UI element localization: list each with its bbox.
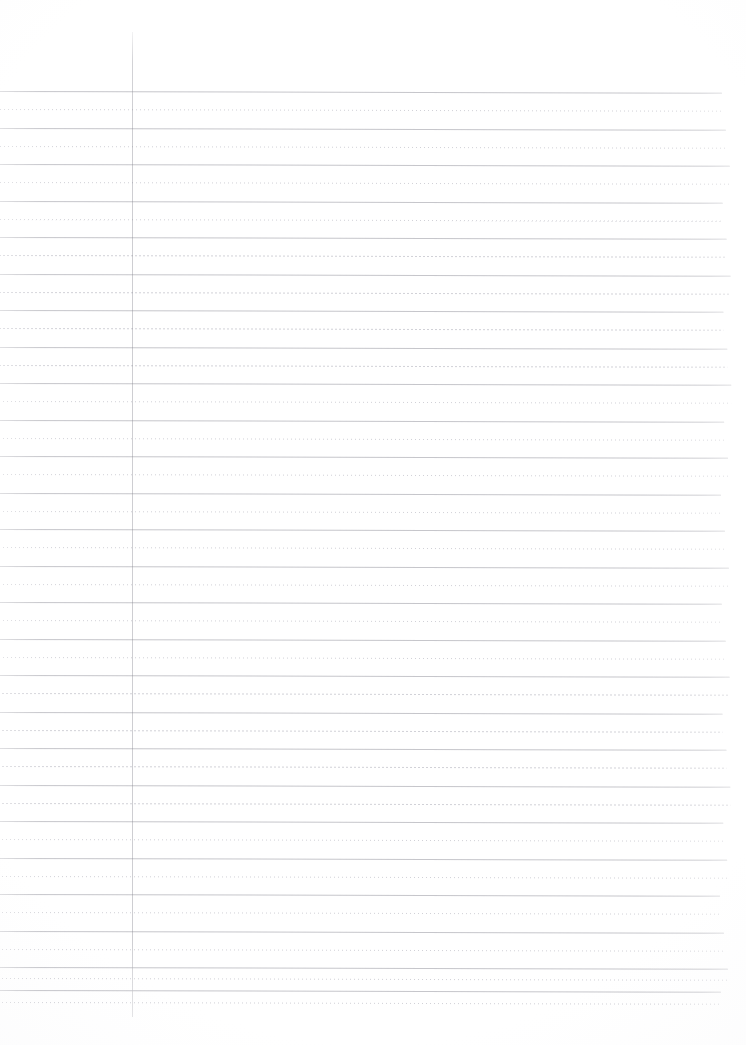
top-margin-region bbox=[0, 0, 746, 91]
page-text-content bbox=[140, 95, 720, 975]
bottom-margin-region bbox=[0, 990, 746, 1045]
left-margin-region bbox=[0, 91, 132, 990]
notebook-page bbox=[0, 0, 746, 1045]
